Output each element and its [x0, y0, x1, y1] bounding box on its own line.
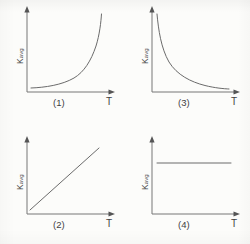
panel-label: (3)	[178, 97, 190, 108]
x-axis-arrow-icon	[234, 211, 241, 216]
data-curve-exponential	[31, 14, 102, 88]
chart-panel-1: Kavg (1) T	[0, 0, 125, 122]
y-axis-label: Kavg	[140, 174, 150, 190]
y-axis-arrow-icon	[24, 136, 29, 143]
x-axis-label: T	[106, 96, 112, 107]
panel-label: (4)	[178, 219, 190, 230]
x-axis-arrow-icon	[109, 211, 116, 216]
x-axis-label: T	[231, 218, 237, 229]
y-axis-arrow-icon	[24, 6, 29, 13]
data-curve-decay	[157, 14, 229, 89]
y-axis-label: Kavg	[15, 174, 25, 190]
data-line-linear	[30, 148, 99, 210]
x-axis-label: T	[106, 218, 112, 229]
chart-panel-2: Kavg (2) T	[0, 122, 125, 244]
y-axis-label: Kavg	[15, 48, 25, 64]
y-axis-label: Kavg	[140, 48, 150, 64]
y-axis-arrow-icon	[149, 136, 154, 143]
chart-panel-4: Kavg (4) T	[125, 122, 250, 244]
x-axis-label: T	[231, 96, 237, 107]
panel-label: (2)	[53, 219, 65, 230]
y-axis-arrow-icon	[149, 6, 154, 13]
chart-panel-3: Kavg (3) T	[125, 0, 250, 122]
panel-label: (1)	[53, 97, 65, 108]
figure-page: Kavg (1) T Kavg (3) T Kavg	[0, 0, 250, 244]
x-axis-arrow-icon	[109, 89, 116, 94]
x-axis-arrow-icon	[234, 89, 241, 94]
